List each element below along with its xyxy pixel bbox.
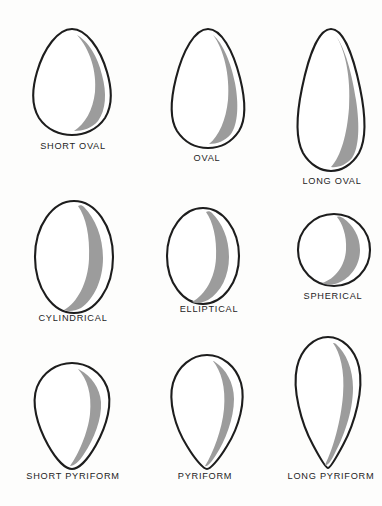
shape-cylindrical (31, 197, 117, 317)
shape-elliptical (163, 204, 243, 308)
label-cylindrical: CYLINDRICAL (21, 313, 125, 324)
label-long-pyriform: LONG PYRIFORM (275, 471, 382, 482)
shape-long-pyriform (288, 333, 368, 473)
shape-oval (165, 26, 251, 151)
label-spherical: SPHERICAL (290, 291, 376, 302)
oval-drawing (165, 26, 251, 151)
label-pyriform: PYRIFORM (160, 471, 250, 482)
label-short-pyriform: SHORT PYRIFORM (14, 471, 132, 482)
short-pyriform-drawing (28, 359, 118, 473)
label-short-oval: SHORT OVAL (28, 141, 118, 152)
cylindrical-drawing (31, 197, 117, 317)
shape-short-oval (28, 26, 116, 138)
short-oval-drawing (28, 26, 116, 138)
shape-pyriform (164, 351, 250, 473)
shape-long-oval (290, 26, 372, 174)
egg-shape-diagram: SHORT OVAL OVAL LONG OVAL CYLINDRICAL EL… (0, 0, 382, 506)
label-long-oval: LONG OVAL (287, 176, 377, 187)
label-elliptical: ELLIPTICAL (163, 304, 255, 315)
label-oval: OVAL (162, 153, 252, 164)
shape-spherical (294, 209, 374, 291)
long-pyriform-drawing (288, 333, 368, 473)
spherical-drawing (294, 209, 374, 291)
shape-short-pyriform (28, 359, 118, 473)
long-oval-drawing (290, 26, 372, 174)
elliptical-drawing (163, 204, 243, 308)
pyriform-drawing (164, 351, 250, 473)
